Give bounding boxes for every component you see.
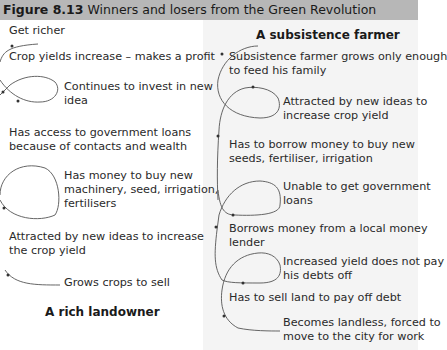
rich-step-attracted-2: the crop yield bbox=[9, 244, 86, 258]
sub-step-borrow-1: Has to borrow money to buy new bbox=[229, 138, 415, 152]
figure-header: Figure 8.13 Winners and losers from the … bbox=[0, 0, 418, 20]
sub-step-lender-1: Borrows money from a local money bbox=[229, 222, 428, 236]
sub-step-sell-land: Has to sell land to pay off debt bbox=[229, 291, 401, 305]
subsistence-farmer-title: A subsistence farmer bbox=[256, 28, 400, 42]
sub-step-borrow-2: seeds, fertiliser, irrigation bbox=[229, 152, 373, 166]
sub-step-grows-1: Subsistence farmer grows only enough bbox=[229, 50, 447, 64]
rich-step-money-3: fertilisers bbox=[64, 197, 116, 211]
sub-step-unable-1: Unable to get government bbox=[283, 180, 431, 194]
rich-step-attracted-1: Attracted by new ideas to increase bbox=[9, 230, 204, 244]
rich-step-money-1: Has money to buy new bbox=[64, 169, 193, 183]
figure-label: Figure 8.13 bbox=[3, 2, 84, 17]
sub-step-attracted-1: Attracted by new ideas to bbox=[283, 95, 427, 109]
rich-step-grows: Grows crops to sell bbox=[64, 276, 170, 290]
sub-step-yield-2: his debts off bbox=[283, 269, 352, 283]
sub-step-landless-1: Becomes landless, forced to bbox=[283, 316, 441, 330]
sub-step-lender-2: lender bbox=[229, 236, 265, 250]
rich-step-yields: Crop yields increase – makes a profit bbox=[9, 50, 215, 64]
rich-step-loans-2: because of contacts and wealth bbox=[9, 140, 187, 154]
sub-step-landless-2: move to the city for work bbox=[283, 330, 424, 344]
sub-step-grows-2: to feed his family bbox=[229, 64, 326, 78]
rich-step-loans-1: Has access to government loans bbox=[9, 126, 191, 140]
rich-landowner-title: A rich landowner bbox=[45, 305, 160, 319]
sub-step-yield-1: Increased yield does not pay bbox=[283, 255, 444, 269]
figure-title: Winners and losers from the Green Revolu… bbox=[88, 2, 377, 17]
rich-step-invest-2: idea bbox=[64, 94, 88, 108]
rich-step-invest-1: Continues to invest in new bbox=[64, 80, 213, 94]
rich-step-money-2: machinery, seed, irrigation, bbox=[64, 183, 218, 197]
sub-step-unable-2: loans bbox=[283, 194, 313, 208]
sub-step-attracted-2: increase crop yield bbox=[283, 109, 389, 123]
rich-step-get-richer: Get richer bbox=[9, 24, 65, 38]
